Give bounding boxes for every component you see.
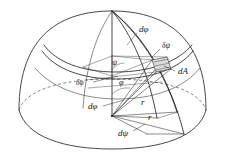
hemisphere-outline bbox=[19, 11, 206, 149]
label-d-psi-bottom: dψ bbox=[118, 128, 129, 138]
phi-angle-arc bbox=[112, 88, 130, 94]
cone-edge-c bbox=[83, 56, 112, 67]
label-radius-lower: r bbox=[148, 112, 152, 122]
label-delta-phi-left: δφ bbox=[76, 78, 84, 87]
latitude-arcs bbox=[35, 45, 200, 99]
radius-to-patch-top-left bbox=[112, 60, 152, 116]
radius-to-rim-b bbox=[112, 112, 178, 116]
latitude-arc-third bbox=[35, 68, 200, 99]
leader-delta-psi bbox=[152, 49, 160, 57]
label-d-phi-top: dφ bbox=[139, 24, 149, 34]
leader-d-phi-left bbox=[103, 100, 124, 106]
label-delta-psi: δψ bbox=[162, 41, 170, 50]
latitude-arc-lower bbox=[42, 51, 193, 79]
label-d-phi-left: dφ bbox=[88, 101, 98, 111]
meridian-arc-left bbox=[83, 11, 112, 108]
equator-back-dashed-arc bbox=[19, 79, 206, 110]
hemisphere-diagram: dφ δψ dA δφ dφ dψ ψ φ r r bbox=[0, 0, 225, 153]
label-phi-angle: φ bbox=[119, 78, 124, 87]
figure-container: dφ δψ dA δφ dφ dψ ψ φ r r bbox=[0, 0, 225, 153]
meridian-arcs bbox=[83, 11, 184, 134]
label-psi-angle: ψ bbox=[112, 58, 118, 67]
label-radius-upper: r bbox=[141, 97, 145, 107]
meridian-arc-patch-left bbox=[112, 11, 157, 118]
label-dA: dA bbox=[178, 66, 189, 76]
